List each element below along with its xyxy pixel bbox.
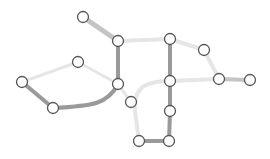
node-n6 bbox=[245, 75, 256, 86]
node-n14 bbox=[17, 77, 28, 88]
node-n10 bbox=[134, 136, 145, 147]
edge-n1-n2 bbox=[83, 17, 118, 41]
edge-n13-n12 bbox=[78, 62, 118, 84]
node-n3 bbox=[165, 34, 176, 45]
node-n2 bbox=[113, 36, 124, 47]
node-n4 bbox=[199, 45, 210, 56]
edge-n15-n12 bbox=[53, 84, 118, 108]
node-n5 bbox=[214, 74, 225, 85]
edge-n7-n5 bbox=[170, 79, 219, 81]
node-n11 bbox=[126, 97, 137, 108]
node-n13 bbox=[73, 57, 84, 68]
node-n12 bbox=[113, 79, 124, 90]
node-n9 bbox=[164, 136, 175, 147]
node-n1 bbox=[78, 12, 89, 23]
edge-n2-n3 bbox=[118, 39, 170, 41]
node-n7 bbox=[165, 76, 176, 87]
node-n8 bbox=[165, 106, 176, 117]
node-n15 bbox=[48, 103, 59, 114]
network-diagram bbox=[0, 0, 270, 159]
edge-n13-n14 bbox=[22, 62, 78, 82]
